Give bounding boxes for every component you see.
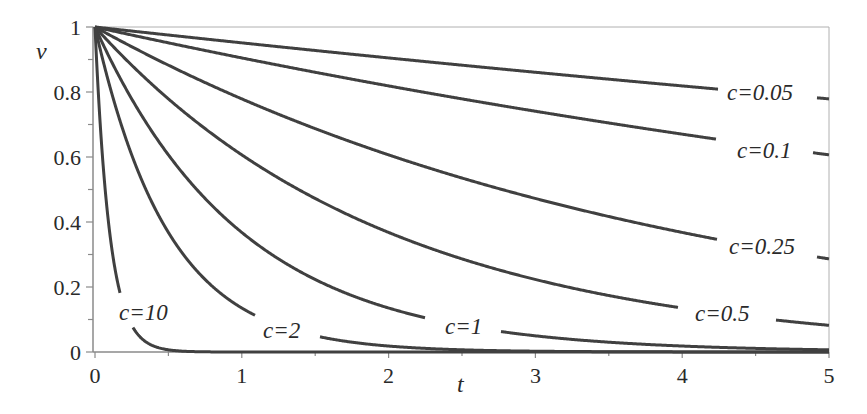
label-c-2: c=2 [263, 318, 300, 343]
label-c-0.1: c=0.1 [737, 138, 791, 163]
curve-c-0.05 [95, 27, 718, 89]
label-c-0.5: c=0.5 [695, 301, 749, 326]
y-tick-label: 1 [70, 15, 81, 40]
curve-c-0.1 [813, 153, 829, 155]
x-tick-label: 5 [824, 363, 835, 388]
y-tick-label: 0.4 [54, 210, 82, 235]
x-tick-label: 2 [383, 363, 394, 388]
curve-c-0.5 [776, 320, 829, 325]
curve-c-1 [95, 27, 425, 318]
y-tick-label: 0.6 [54, 145, 82, 170]
curve-c-10 [95, 27, 120, 293]
curve-c-0.5 [95, 27, 678, 307]
y-tick-label: 0.2 [54, 275, 82, 300]
x-tick-label: 4 [677, 363, 688, 388]
label-c-0.05: c=0.05 [727, 80, 793, 105]
x-tick-label: 0 [90, 363, 101, 388]
label-c-0.25: c=0.25 [729, 234, 795, 259]
curve-c-2 [95, 27, 255, 315]
y-tick-label: 0 [70, 340, 81, 365]
curve-c-0.05 [817, 98, 829, 99]
curve-c-0.25 [817, 257, 829, 259]
chart: 01234500.20.40.60.81 v t c=0.05 c=0.1 c=… [0, 0, 867, 414]
y-axis-label: v [36, 38, 47, 64]
x-tick-label: 1 [236, 363, 247, 388]
tick-labels: 01234500.20.40.60.81 [54, 15, 835, 388]
label-c-1: c=1 [445, 314, 482, 339]
label-c-10: c=10 [119, 300, 168, 325]
curve-c-0.1 [95, 27, 716, 139]
y-tick-label: 0.8 [54, 80, 82, 105]
x-axis-label: t [457, 371, 465, 397]
curve-c-1 [501, 332, 829, 350]
x-tick-label: 3 [530, 363, 541, 388]
